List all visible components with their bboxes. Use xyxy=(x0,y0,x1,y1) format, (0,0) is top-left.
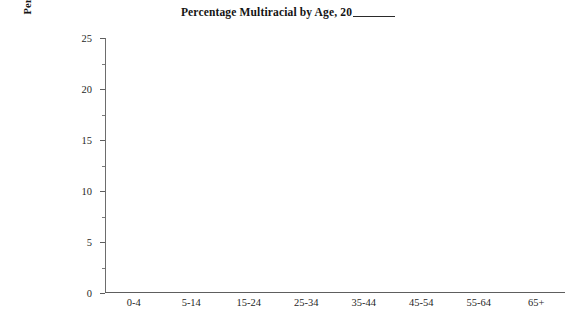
x-tick-label: 0-4 xyxy=(105,297,163,308)
chart-title: Percentage Multiracial by Age, 20 xyxy=(0,6,576,18)
chart-title-blank-underline xyxy=(353,16,395,17)
x-axis-tick-labels: 0-45-1415-2425-3435-4445-5455-6465+ xyxy=(105,297,565,308)
y-tick-label: 5 xyxy=(87,237,92,248)
y-tick-label: 0 xyxy=(87,288,92,299)
y-tick-minor xyxy=(102,115,105,116)
x-tick-label: 45-54 xyxy=(393,297,451,308)
y-tick-label: 15 xyxy=(82,135,93,146)
y-tick-label: 20 xyxy=(82,84,93,95)
y-tick-label: 10 xyxy=(82,186,93,197)
y-tick-major: 0 xyxy=(100,293,105,294)
x-tick-label: 15-24 xyxy=(220,297,278,308)
y-axis-line xyxy=(105,38,106,293)
plot-background xyxy=(105,38,565,293)
y-tick-minor xyxy=(102,268,105,269)
x-tick-label: 5-14 xyxy=(163,297,221,308)
x-tick-label: 65+ xyxy=(508,297,566,308)
x-tick-label: 35-44 xyxy=(335,297,393,308)
x-tick-label: 55-64 xyxy=(450,297,508,308)
x-tick-label: 25-34 xyxy=(278,297,336,308)
plot-area: 0510152025 xyxy=(105,38,565,293)
y-tick-major: 20 xyxy=(100,89,105,90)
y-tick-label: 25 xyxy=(82,33,93,44)
y-tick-major: 10 xyxy=(100,191,105,192)
y-tick-minor xyxy=(102,64,105,65)
x-axis-line xyxy=(105,292,565,293)
y-tick-major: 5 xyxy=(100,242,105,243)
y-tick-minor xyxy=(102,217,105,218)
y-tick-major: 15 xyxy=(100,140,105,141)
y-tick-major: 25 xyxy=(100,38,105,39)
y-axis-title: Percentage Multiracial xyxy=(22,0,38,74)
y-tick-minor xyxy=(102,166,105,167)
chart-title-text: Percentage Multiracial by Age, 20 xyxy=(181,6,352,18)
chart-figure: Percentage Multiracial by Age, 20 Percen… xyxy=(0,0,576,330)
